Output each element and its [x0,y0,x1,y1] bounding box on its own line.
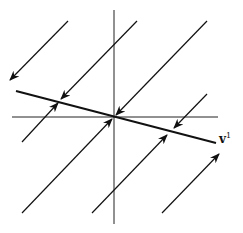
trajectory-arrow [92,135,167,213]
trajectory-arrow [22,103,58,142]
trajectory-arrow [61,21,137,99]
eigenvector-index: 1 [226,131,231,140]
trajectory-arrow [10,21,68,80]
eigenvector-label: v1 [219,131,231,146]
phase-plot [0,0,243,233]
trajectory-arrow [116,21,207,115]
trajectory-arrow [22,119,112,213]
phase-portrait-diagram: v1 [0,0,243,233]
trajectory-arrow [162,154,219,213]
eigenvector-symbol: v [219,132,226,146]
trajectory-arrow [174,94,207,128]
